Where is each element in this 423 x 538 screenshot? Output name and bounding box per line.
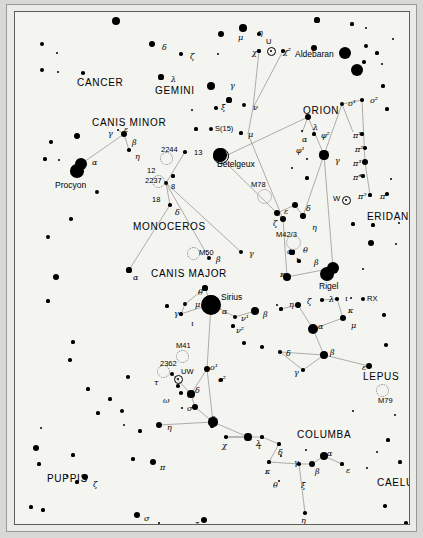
constellation-name: CANCER — [77, 78, 123, 88]
bayer-label: φ¹ — [296, 147, 305, 155]
star-dot — [40, 427, 42, 429]
bayer-label: α — [302, 136, 307, 144]
bayer-label: δ — [162, 44, 167, 52]
star-dot — [40, 68, 44, 72]
star-dot — [57, 71, 59, 73]
star-dot — [40, 42, 44, 46]
bayer-label: δ — [278, 449, 283, 457]
star-dot — [368, 193, 371, 196]
star-dot — [231, 324, 234, 327]
bayer-label: δ — [286, 350, 291, 358]
bayer-label: β — [314, 259, 319, 267]
bayer-label: η — [289, 301, 294, 309]
star-dot — [362, 268, 364, 270]
star-dot — [280, 216, 286, 222]
constellation-line — [253, 51, 259, 108]
star-dot — [233, 315, 237, 319]
star-dot — [394, 414, 397, 417]
bayer-label: ζ — [190, 53, 194, 61]
star-dot — [384, 343, 388, 347]
star-dot — [168, 203, 172, 207]
constellation-name: LEPUS — [363, 372, 399, 382]
star-dot — [366, 467, 369, 470]
bayer-label: κ — [280, 271, 285, 279]
bayer-label: τ — [154, 379, 158, 387]
star-dot — [123, 424, 126, 427]
star-dot — [56, 52, 58, 54]
variable-star-dot — [209, 127, 213, 131]
bayer-label: χ — [222, 442, 227, 450]
star-dot — [274, 210, 280, 216]
bayer-label: η — [135, 153, 140, 161]
bayer-label: δ — [306, 205, 311, 213]
star-dot — [210, 424, 213, 427]
star-dot — [301, 368, 305, 372]
star-dot — [96, 411, 99, 414]
deep-sky-label: 2237 — [145, 177, 162, 185]
bayer-label: λ — [171, 76, 176, 84]
star-dot — [171, 174, 174, 177]
star-dot — [278, 350, 282, 354]
star-dot — [202, 285, 207, 290]
bayer-label: β — [330, 349, 335, 357]
constellation-line — [280, 352, 303, 370]
star-dot — [295, 302, 302, 309]
star-dot — [251, 307, 259, 315]
bayer-label: ι — [345, 295, 348, 303]
star-dot — [382, 313, 386, 317]
star-dot — [112, 17, 120, 25]
star-dot — [305, 176, 308, 179]
deep-sky-label: M78 — [251, 181, 266, 189]
bayer-label: ζ — [93, 481, 97, 489]
star-name-label: Procyon — [55, 181, 86, 190]
variable-star-label: W — [333, 195, 340, 203]
bayer-label: γ — [335, 157, 340, 165]
star-dot — [187, 390, 194, 397]
star-dot — [340, 462, 343, 465]
star-dot — [170, 372, 175, 377]
bayer-label: ε — [346, 467, 350, 475]
cluster-marker — [376, 384, 389, 397]
star-dot — [218, 31, 224, 37]
bayer-label: o¹ — [210, 364, 218, 372]
star-dot — [371, 223, 374, 226]
star-dot — [71, 340, 74, 343]
bayer-label: η — [301, 517, 306, 524]
constellation-name: CAELUM — [377, 478, 409, 488]
named-star-dot — [70, 164, 84, 178]
variable-star-dot — [361, 297, 365, 301]
star-name-label: Aldebaran — [295, 50, 334, 59]
star-dot — [95, 190, 99, 194]
star-dot — [376, 451, 379, 454]
star-dot — [181, 407, 184, 410]
star-dot — [319, 150, 328, 159]
star-dot — [49, 140, 53, 144]
constellation-name: ORION — [303, 106, 339, 116]
star-dot — [276, 304, 279, 307]
bayer-label: π¹ — [353, 132, 361, 140]
bayer-label: π⁵ — [358, 193, 366, 201]
star-dot — [320, 351, 328, 359]
flamsteed-label: 12 — [147, 167, 155, 175]
bayer-label: ι — [191, 320, 194, 328]
bayer-label: θ — [273, 482, 278, 490]
bayer-label: ζ — [307, 298, 311, 306]
flamsteed-label: 13 — [194, 149, 202, 157]
bayer-label: ν — [253, 104, 258, 112]
bayer-label: o¹ — [348, 100, 356, 108]
constellation-name: ERIDANUS — [367, 212, 409, 222]
bayer-label: π — [160, 464, 165, 472]
star-dot — [375, 51, 378, 54]
star-name-label: Rigel — [319, 282, 338, 291]
bayer-label: β — [132, 139, 137, 147]
bayer-label: θ — [198, 289, 203, 297]
star-dot — [392, 38, 394, 40]
star-dot — [277, 442, 280, 445]
bayer-label: π⁶ — [380, 193, 388, 201]
bayer-label: γ — [294, 369, 299, 377]
bayer-label: η — [167, 424, 172, 432]
star-dot — [303, 511, 307, 515]
star-dot — [312, 132, 315, 135]
star-dot — [86, 387, 89, 390]
star-dot — [127, 148, 131, 152]
